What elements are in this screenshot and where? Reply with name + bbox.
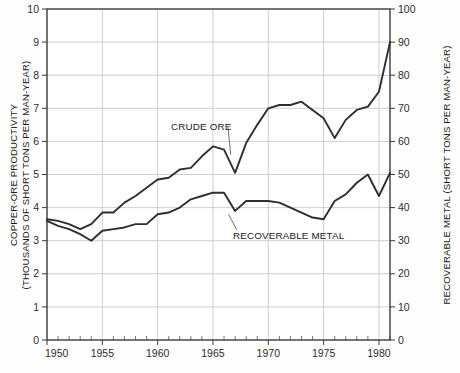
y-axis-left-tick-label: 0 <box>33 334 39 346</box>
y-axis-right-tick-label: 100 <box>398 3 416 15</box>
series-annotation-label: CRUDE ORE <box>171 121 232 132</box>
y-axis-right-tick-label: 30 <box>398 234 410 246</box>
copper-ore-productivity-line-chart: 012345678910 0102030405060708090100 1950… <box>0 0 460 373</box>
y-axis-left-tick-label: 2 <box>33 267 39 279</box>
y-axis-right-tick-label: 10 <box>398 301 410 313</box>
x-axis-tick-labels: 1950195519601965197019751980 <box>45 347 391 359</box>
x-axis-tick-label: 1960 <box>146 347 170 359</box>
y-axis-right-tick-label: 20 <box>398 267 410 279</box>
y-axis-right-tick-label: 80 <box>398 69 410 81</box>
y-axis-right-tick-labels: 0102030405060708090100 <box>398 3 416 346</box>
y-axis-right-tick-label: 40 <box>398 201 410 213</box>
y-axis-left-title-group: COPPER-ORE PRODUCTIVITY (THOUSANDS OF SH… <box>8 61 31 290</box>
chart-container: 012345678910 0102030405060708090100 1950… <box>0 0 460 373</box>
x-axis-tick-label: 1975 <box>312 347 336 359</box>
y-axis-right-tick-label: 50 <box>398 168 410 180</box>
y-axis-left-tick-label: 6 <box>33 135 39 147</box>
y-axis-left-title-line1: COPPER-ORE PRODUCTIVITY <box>8 104 19 246</box>
x-axis-ticks <box>47 340 379 345</box>
y-axis-left-ticks <box>42 9 47 340</box>
y-axis-left-tick-label: 3 <box>33 234 39 246</box>
series-annotation-label: RECOVERABLE METAL <box>233 230 345 241</box>
y-axis-left-tick-label: 4 <box>33 201 39 213</box>
y-axis-left-tick-label: 10 <box>27 3 39 15</box>
y-axis-right-title: RECOVERABLE METAL (SHORT TONS PER MAN-YE… <box>441 46 452 305</box>
x-axis-tick-label: 1970 <box>257 347 281 359</box>
y-axis-right-tick-label: 90 <box>398 36 410 48</box>
y-axis-left-title-line2: (THOUSANDS OF SHORT TONS PER MAN-YEAR) <box>20 61 31 290</box>
y-axis-left-tick-label: 8 <box>33 69 39 81</box>
y-axis-left-tick-label: 1 <box>33 301 39 313</box>
x-axis-tick-label: 1950 <box>45 347 69 359</box>
y-axis-right-tick-label: 70 <box>398 102 410 114</box>
x-axis-tick-label: 1965 <box>201 347 225 359</box>
y-axis-right-tick-label: 0 <box>398 334 404 346</box>
y-axis-left-tick-label: 7 <box>33 102 39 114</box>
x-axis-tick-label: 1955 <box>91 347 115 359</box>
y-axis-right-ticks <box>390 9 395 340</box>
x-axis-tick-label: 1980 <box>367 347 391 359</box>
y-axis-right-title-group: RECOVERABLE METAL (SHORT TONS PER MAN-YE… <box>441 46 452 305</box>
y-axis-left-tick-label: 5 <box>33 168 39 180</box>
y-axis-right-tick-label: 60 <box>398 135 410 147</box>
y-axis-left-tick-label: 9 <box>33 36 39 48</box>
